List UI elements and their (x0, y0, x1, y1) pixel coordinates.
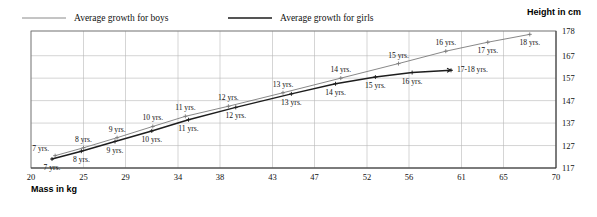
data-point-label: 14 yrs. (330, 65, 351, 74)
data-point-label: 15 yrs. (388, 51, 409, 60)
data-point-marker (82, 146, 86, 150)
data-point-label: 8 yrs. (75, 135, 92, 144)
x-tick-label: 52 (363, 172, 372, 182)
y-tick-label: 178 (562, 26, 575, 36)
y-tick-label: 147 (562, 96, 575, 106)
x-tick-label: 20 (27, 172, 36, 182)
x-axis-tick-labels: 202529343843475256616570 (27, 172, 561, 182)
chart-svg: Average growth for boys Average growth f… (0, 0, 597, 217)
data-point-label: 16 yrs. (435, 38, 456, 47)
data-point-label: 13 yrs. (273, 80, 294, 89)
data-point-label: 16 yrs. (402, 77, 423, 86)
data-point-label: 13 yrs. (281, 98, 302, 107)
x-tick-label: 34 (174, 172, 183, 182)
data-point-label: 17-18 yrs. (457, 65, 488, 74)
data-point-label: 10 yrs. (142, 113, 163, 122)
data-point-label: 9 yrs. (109, 125, 126, 134)
data-point-label: 8 yrs. (73, 155, 90, 164)
x-tick-label: 25 (79, 172, 88, 182)
data-point-marker (339, 76, 343, 80)
data-point-marker (410, 71, 414, 75)
data-point-label: 11 yrs. (175, 103, 195, 112)
x-axis-title: Mass in kg (31, 184, 77, 194)
data-point-marker (334, 82, 338, 86)
data-point-marker (528, 32, 532, 36)
data-point-marker (151, 124, 155, 128)
data-point-marker (226, 104, 230, 108)
legend-label-girls: Average growth for girls (280, 13, 374, 23)
data-point-marker (234, 105, 238, 109)
data-point-label: 7 yrs. (32, 144, 49, 153)
data-point-labels: 7 yrs.8 yrs.9 yrs.10 yrs.11 yrs.12 yrs.1… (32, 38, 540, 172)
data-point-marker (281, 91, 285, 95)
x-tick-label: 38 (216, 172, 225, 182)
data-point-marker (397, 62, 401, 66)
x-tick-label: 56 (405, 172, 414, 182)
data-point-label: 17 yrs. (477, 46, 498, 55)
data-point-marker (50, 157, 54, 161)
x-tick-label: 29 (121, 172, 130, 182)
series-line-boys (55, 34, 530, 155)
data-point-marker (79, 149, 83, 153)
x-tick-label: 61 (457, 172, 466, 182)
data-point-marker (113, 140, 117, 144)
data-point-marker (187, 118, 191, 122)
x-tick-label: 65 (499, 172, 508, 182)
data-point-label: 15 yrs. (365, 81, 386, 90)
data-point-label: 9 yrs. (107, 146, 124, 155)
y-axis-tick-labels: 117127137147157167178 (562, 26, 575, 173)
data-point-label: 11 yrs. (178, 124, 198, 133)
data-point-label: 10 yrs. (141, 135, 162, 144)
y-tick-label: 137 (562, 118, 575, 128)
data-point-marker (444, 49, 448, 53)
data-point-marker (486, 40, 490, 44)
y-tick-label: 157 (562, 73, 575, 83)
y-tick-label: 117 (562, 163, 574, 173)
x-tick-label: 47 (310, 172, 319, 182)
legend-label-boys: Average growth for boys (74, 13, 169, 23)
data-point-marker (289, 92, 293, 96)
data-point-label: 12 yrs. (218, 93, 239, 102)
data-point-marker (115, 136, 119, 140)
data-point-label: 14 yrs. (325, 88, 346, 97)
y-tick-label: 127 (562, 141, 575, 151)
x-tick-label: 43 (268, 172, 277, 182)
data-point-label: 12 yrs. (225, 111, 246, 120)
y-tick-label: 167 (562, 51, 575, 61)
chart-legend: Average growth for boys Average growth f… (22, 13, 374, 23)
data-point-label: 18 yrs. (519, 38, 540, 47)
growth-chart: Average growth for boys Average growth f… (0, 0, 597, 217)
data-point-label: 7 yrs. (44, 163, 61, 172)
y-axis-title: Height in cm (527, 7, 581, 17)
x-tick-label: 70 (552, 172, 561, 182)
data-point-marker (150, 129, 154, 133)
data-point-marker (183, 114, 187, 118)
